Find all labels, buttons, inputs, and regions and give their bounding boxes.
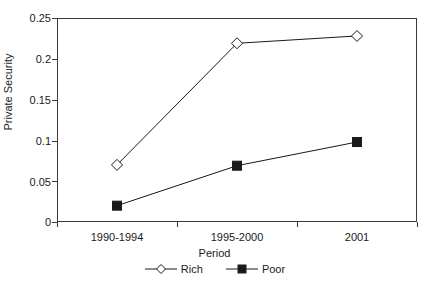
y-axis-title: Private Security	[2, 32, 14, 152]
x-axis-title: Period	[0, 247, 429, 259]
legend-label-rich: Rich	[181, 263, 203, 275]
data-point-rich-2001	[352, 30, 363, 41]
x-tick-label-2001: 2001	[345, 231, 369, 243]
y-tick-label-0: 0	[45, 217, 51, 228]
y-tick-label-0.2: 0.2	[36, 54, 51, 65]
y-tick-label-0.15: 0.15	[30, 95, 51, 106]
legend-entry-poor: Poor	[225, 263, 285, 275]
x-tick-mark-right-edge	[417, 222, 418, 227]
y-tick-label-0.1: 0.1	[36, 136, 51, 147]
series-line-rich	[117, 36, 357, 165]
data-point-poor-1990-1994	[113, 201, 122, 210]
legend-label-poor: Poor	[262, 263, 285, 275]
x-tick-mark-2	[297, 222, 298, 227]
legend-entry-rich: Rich	[144, 263, 203, 275]
data-point-poor-2001	[353, 138, 362, 147]
x-tick-label-1995-2000: 1995-2000	[211, 231, 264, 243]
y-tick-label-0.05: 0.05	[30, 177, 51, 188]
series-line-poor	[117, 142, 357, 206]
line-chart-figure: 0.25 0.2 0.15 0.1 0.05 0 Private Securit…	[0, 0, 429, 285]
x-tick-mark-1	[177, 222, 178, 227]
plot-series-layer	[57, 18, 417, 222]
chart-legend: Rich Poor	[0, 263, 429, 275]
y-tick-label-0.25: 0.25	[30, 13, 51, 24]
x-tick-label-1990-1994: 1990-1994	[91, 231, 144, 243]
data-point-poor-1995-2000	[233, 161, 242, 170]
open-diamond-marker-icon	[144, 263, 178, 275]
filled-square-marker-icon	[225, 263, 259, 275]
x-tick-mark-left-edge	[57, 222, 58, 227]
